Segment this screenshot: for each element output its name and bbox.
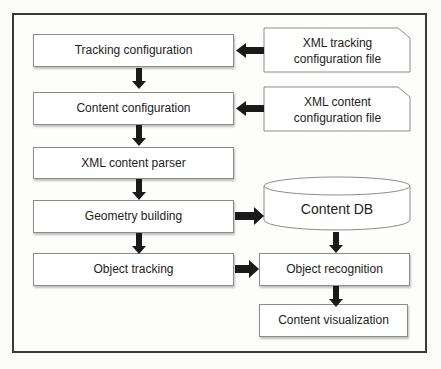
arrow-down-icon	[132, 179, 146, 200]
arrow-left-icon	[236, 101, 264, 116]
arrow-down-icon	[132, 233, 146, 254]
arrows-layer	[0, 0, 441, 369]
arrow-down-icon	[329, 232, 343, 253]
arrow-down-icon	[132, 125, 146, 146]
arrow-down-icon	[132, 68, 146, 89]
arrow-down-icon	[329, 286, 343, 307]
arrow-right-icon	[235, 207, 264, 225]
arrow-right-icon	[235, 260, 259, 278]
arrow-left-icon	[236, 43, 264, 58]
